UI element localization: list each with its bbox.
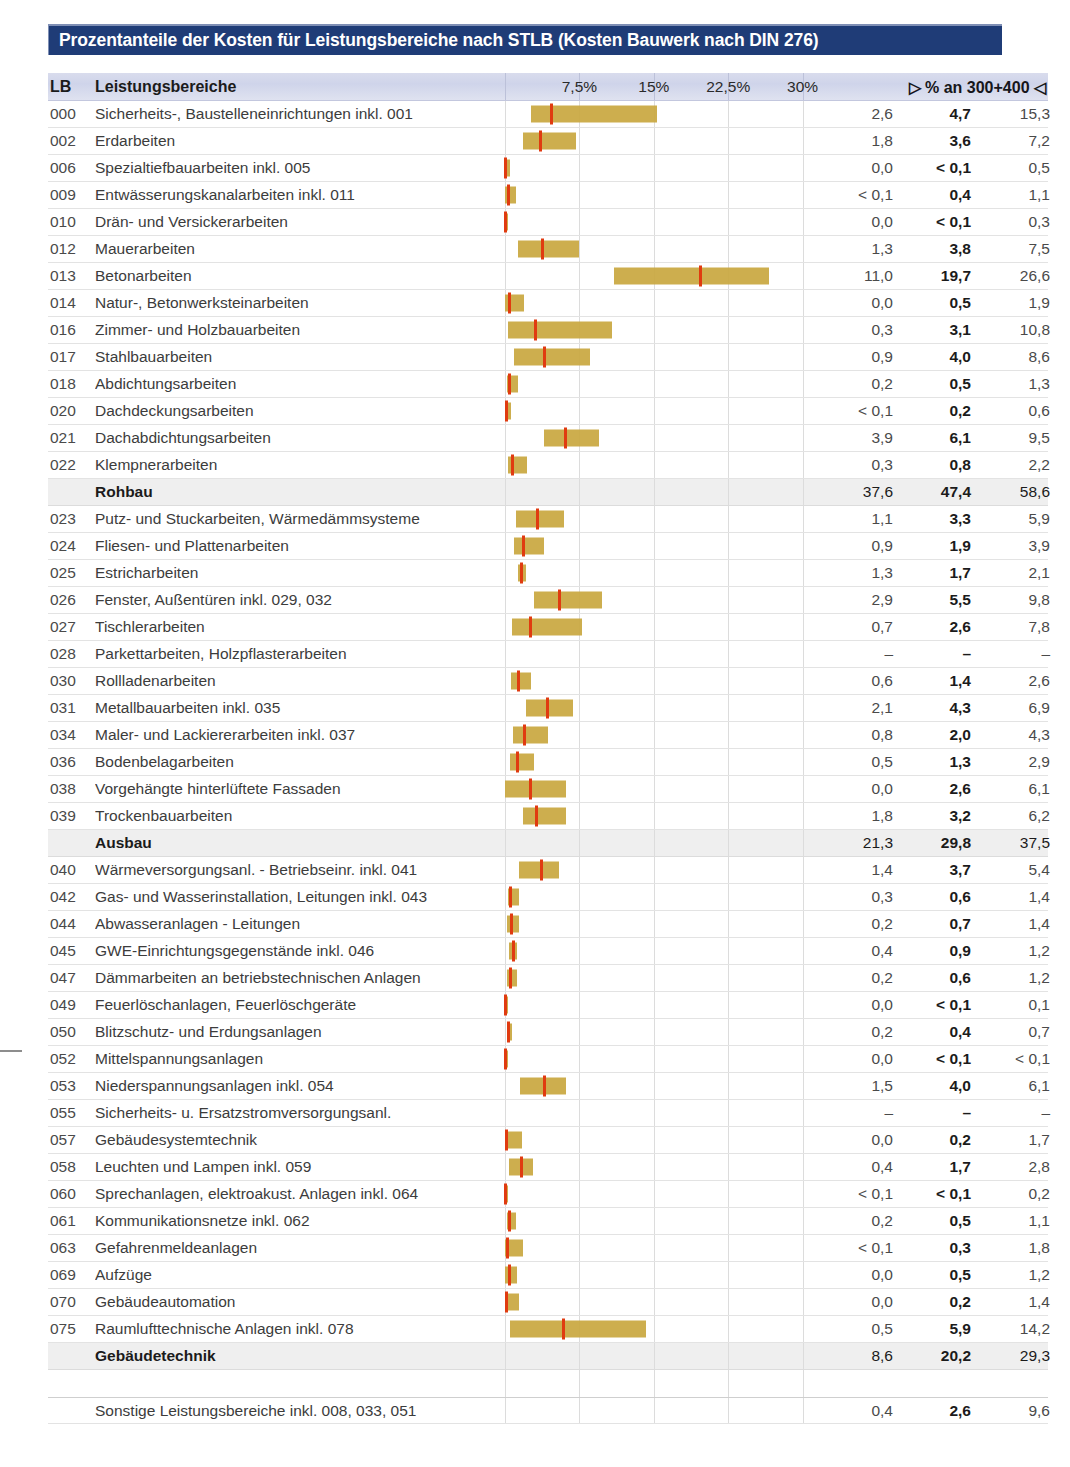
row-value-max: 9,8 [977, 591, 1052, 609]
row-label: Putz- und Stuckarbeiten, Wärmedämmsystem… [95, 510, 495, 528]
table-row[interactable]: 036 Bodenbelagarbeiten 0,5 1,3 2,9 [48, 749, 1048, 776]
row-plot-cell [495, 506, 825, 532]
table-row[interactable]: 050 Blitzschutz- und Erdungsanlagen 0,2 … [48, 1019, 1048, 1046]
table-row[interactable]: 049 Feuerlöschanlagen, Feuerlöschgeräte … [48, 992, 1048, 1019]
row-lb-code: 039 [48, 807, 95, 825]
table-row[interactable]: 026 Fenster, Außentüren inkl. 029, 032 2… [48, 587, 1048, 614]
row-label: Estricharbeiten [95, 564, 495, 582]
table-row[interactable]: 009 Entwässerungskanalarbeiten inkl. 011… [48, 182, 1048, 209]
table-row[interactable]: 052 Mittelspannungsanlagen 0,0 < 0,1 < 0… [48, 1046, 1048, 1073]
row-value-min: 0,2 [825, 969, 899, 987]
axis-gridline [579, 1262, 580, 1288]
row-lb-code: 049 [48, 996, 95, 1014]
axis-gridline [728, 614, 729, 640]
row-value-max: 5,9 [977, 510, 1052, 528]
table-row[interactable]: Gebäudetechnik 8,6 20,2 29,3 [48, 1343, 1048, 1370]
median-marker [536, 509, 539, 530]
row-plot-cell [495, 236, 825, 262]
table-row[interactable]: 069 Aufzüge 0,0 0,5 1,2 [48, 1262, 1048, 1289]
table-row[interactable]: 070 Gebäudeautomation 0,0 0,2 1,4 [48, 1289, 1048, 1316]
row-value-median: 47,4 [899, 483, 977, 501]
table-row[interactable]: 028 Parkettarbeiten, Holzpflasterarbeite… [48, 641, 1048, 668]
table-row[interactable] [48, 1370, 1048, 1397]
table-row[interactable]: Ausbau 21,3 29,8 37,5 [48, 830, 1048, 857]
table-row[interactable]: 022 Klempnerarbeiten 0,3 0,8 2,2 [48, 452, 1048, 479]
row-value-min: 1,3 [825, 240, 899, 258]
table-row[interactable]: 024 Fliesen- und Plattenarbeiten 0,9 1,9… [48, 533, 1048, 560]
table-row[interactable]: 013 Betonarbeiten 11,0 19,7 26,6 [48, 263, 1048, 290]
table-row[interactable]: 023 Putz- und Stuckarbeiten, Wärmedämmsy… [48, 506, 1048, 533]
table-row[interactable]: 030 Rollladenarbeiten 0,6 1,4 2,6 [48, 668, 1048, 695]
row-label: Tischlerarbeiten [95, 618, 495, 636]
row-value-min: 0,0 [825, 1131, 899, 1149]
table-row[interactable]: Rohbau 37,6 47,4 58,6 [48, 479, 1048, 506]
row-plot-cell [495, 533, 825, 559]
axis-gridline [654, 371, 655, 397]
table-row[interactable]: 000 Sicherheits-, Baustelleneinrichtunge… [48, 101, 1048, 128]
row-label: Stahlbauarbeiten [95, 348, 495, 366]
table-row[interactable]: 012 Mauerarbeiten 1,3 3,8 7,5 [48, 236, 1048, 263]
table-row[interactable]: Sonstige Leistungsbereiche inkl. 008, 03… [48, 1397, 1048, 1424]
table-row[interactable]: 038 Vorgehängte hinterlüftete Fassaden 0… [48, 776, 1048, 803]
row-value-max: 0,5 [977, 159, 1052, 177]
table-row[interactable]: 039 Trockenbauarbeiten 1,8 3,2 6,2 [48, 803, 1048, 830]
table-row[interactable]: 017 Stahlbauarbeiten 0,9 4,0 8,6 [48, 344, 1048, 371]
axis-gridline [579, 236, 580, 262]
table-row[interactable]: 016 Zimmer- und Holzbauarbeiten 0,3 3,1 … [48, 317, 1048, 344]
table-row[interactable]: 031 Metallbauarbeiten inkl. 035 2,1 4,3 … [48, 695, 1048, 722]
row-value-min: 0,0 [825, 1050, 899, 1068]
axis-gridline [579, 938, 580, 964]
table-row[interactable]: 057 Gebäudesystemtechnik 0,0 0,2 1,7 [48, 1127, 1048, 1154]
table-row[interactable]: 006 Spezialtiefbauarbeiten inkl. 005 0,0… [48, 155, 1048, 182]
axis-gridline [803, 1127, 804, 1153]
table-row[interactable]: 025 Estricharbeiten 1,3 1,7 2,1 [48, 560, 1048, 587]
row-label: Spezialtiefbauarbeiten inkl. 005 [95, 159, 495, 177]
table-row[interactable]: 053 Niederspannungsanlagen inkl. 054 1,5… [48, 1073, 1048, 1100]
table-row[interactable]: 034 Maler- und Lackiererarbeiten inkl. 0… [48, 722, 1048, 749]
table-row[interactable]: 002 Erdarbeiten 1,8 3,6 7,2 [48, 128, 1048, 155]
table-row[interactable]: 018 Abdichtungsarbeiten 0,2 0,5 1,3 [48, 371, 1048, 398]
median-marker [504, 158, 507, 179]
table-row[interactable]: 020 Dachdeckungsarbeiten < 0,1 0,2 0,6 [48, 398, 1048, 425]
row-plot-cell [495, 560, 825, 586]
row-plot-cell [495, 209, 825, 235]
row-value-min: 0,3 [825, 888, 899, 906]
axis-gridline [505, 236, 506, 262]
row-value-median: 0,6 [899, 969, 977, 987]
axis-gridline [505, 263, 506, 289]
range-bar [514, 349, 590, 366]
table-row[interactable]: 021 Dachabdichtungsarbeiten 3,9 6,1 9,5 [48, 425, 1048, 452]
table-row[interactable]: 061 Kommunikationsnetze inkl. 062 0,2 0,… [48, 1208, 1048, 1235]
row-lb-code: 021 [48, 429, 95, 447]
table-row[interactable]: 047 Dämmarbeiten an betriebstechnischen … [48, 965, 1048, 992]
table-row[interactable]: 042 Gas- und Wasserinstallation, Leitung… [48, 884, 1048, 911]
table-row[interactable]: 060 Sprechanlagen, elektroakust. Anlagen… [48, 1181, 1048, 1208]
row-lb-code: 038 [48, 780, 95, 798]
table-row[interactable]: 027 Tischlerarbeiten 0,7 2,6 7,8 [48, 614, 1048, 641]
table-row[interactable]: 014 Natur-, Betonwerksteinarbeiten 0,0 0… [48, 290, 1048, 317]
row-plot-cell [495, 1316, 825, 1342]
row-value-median: 19,7 [899, 267, 977, 285]
row-value-min: 8,6 [825, 1347, 899, 1365]
axis-gridline [728, 128, 729, 154]
axis-gridline [579, 857, 580, 883]
leistungsbereiche-table: LB Leistungsbereiche 7,5%15%22,5%30% ▷ %… [48, 73, 1048, 1424]
row-label: Gebäudeautomation [95, 1293, 495, 1311]
row-value-max: 0,7 [977, 1023, 1052, 1041]
table-row[interactable]: 063 Gefahrenmeldeanlagen < 0,1 0,3 1,8 [48, 1235, 1048, 1262]
table-row[interactable]: 044 Abwasseranlagen - Leitungen 0,2 0,7 … [48, 911, 1048, 938]
table-row[interactable]: 075 Raumlufttechnische Anlagen inkl. 078… [48, 1316, 1048, 1343]
median-marker [504, 995, 507, 1016]
row-label: Betonarbeiten [95, 267, 495, 285]
row-value-max: 2,6 [977, 672, 1052, 690]
axis-gridline [728, 209, 729, 235]
axis-gridline [579, 1127, 580, 1153]
table-row[interactable]: 055 Sicherheits- u. Ersatzstromversorgun… [48, 1100, 1048, 1127]
row-plot-cell [495, 1343, 825, 1369]
table-row[interactable]: 010 Drän- und Versickerarbeiten 0,0 < 0,… [48, 209, 1048, 236]
axis-gridline [803, 992, 804, 1018]
table-row[interactable]: 040 Wärmeversorgungsanl. - Betriebseinr.… [48, 857, 1048, 884]
median-marker [508, 374, 511, 395]
table-row[interactable]: 058 Leuchten und Lampen inkl. 059 0,4 1,… [48, 1154, 1048, 1181]
table-row[interactable]: 045 GWE-Einrichtungsgegenstände inkl. 04… [48, 938, 1048, 965]
